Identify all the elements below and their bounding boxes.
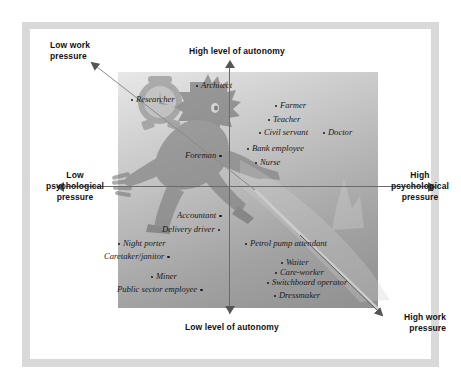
data-point-dot-icon — [245, 243, 247, 245]
occupation-label: Farmer — [275, 100, 306, 110]
occupation-label-text: Dressmaker — [279, 290, 320, 300]
occupation-label-text: Miner — [156, 271, 177, 281]
occupation-label-text: Architect — [201, 80, 232, 90]
occupation-label-text: Public sector employee — [117, 284, 197, 294]
axis-label-right: High psychological pressure — [382, 170, 458, 203]
data-point-dot-icon — [275, 272, 277, 274]
data-point-dot-icon — [219, 215, 221, 217]
axis-arrow-up-icon — [225, 60, 235, 68]
occupation-label-text: Farmer — [280, 100, 306, 110]
occupation-label-text: Doctor — [328, 127, 352, 137]
axis-label-low-work-pressure: Low work pressure — [50, 40, 124, 62]
occupation-label-text: Researcher — [136, 94, 175, 104]
occupation-label: Bank employee — [247, 143, 304, 153]
axis-label-right-line2: psychological — [382, 181, 458, 192]
data-point-dot-icon — [218, 229, 220, 231]
occupation-label: Researcher — [131, 94, 175, 104]
occupation-label: Care-worker — [275, 267, 324, 277]
occupation-label-text: Delivery driver — [162, 224, 215, 234]
data-point-dot-icon — [247, 148, 249, 150]
axis-label-high-work-pressure-line2: pressure — [384, 323, 446, 334]
axis-label-high-work-pressure-line1: High work — [384, 312, 446, 323]
occupation-label-text: Teacher — [273, 114, 300, 124]
occupation-label-text: Foreman — [185, 150, 216, 160]
data-point-dot-icon — [323, 132, 325, 134]
data-point-dot-icon — [275, 105, 277, 107]
data-point-dot-icon — [131, 99, 133, 101]
occupation-label: Nurse — [255, 157, 280, 167]
axis-label-bottom: Low level of autonomy — [185, 322, 279, 333]
occupation-label: Caretaker/janitor — [104, 251, 170, 261]
occupation-label-text: Petrol pump attendant — [250, 238, 327, 248]
data-point-dot-icon — [255, 162, 257, 164]
occupation-label: Miner — [151, 271, 177, 281]
data-point-dot-icon — [219, 155, 221, 157]
occupation-label-text: Civil servant — [264, 127, 308, 137]
axis-label-low-work-pressure-line1: Low work — [50, 40, 124, 51]
occupation-label-text: Accountant — [177, 210, 216, 220]
data-point-dot-icon — [268, 119, 270, 121]
occupation-label-text: Care-worker — [280, 267, 324, 277]
data-point-dot-icon — [274, 295, 276, 297]
axis-label-low-work-pressure-line2: pressure — [50, 51, 124, 62]
occupation-label: Waiter — [281, 257, 309, 267]
occupation-label: Petrol pump attendant — [245, 238, 327, 248]
axis-label-top: High level of autonomy — [189, 46, 285, 57]
axis-label-right-line1: High — [382, 170, 458, 181]
occupation-label: Dressmaker — [274, 290, 320, 300]
occupation-label: Night porter — [118, 238, 166, 248]
data-point-dot-icon — [151, 276, 153, 278]
data-point-dot-icon — [118, 243, 120, 245]
occupation-label: Delivery driver — [162, 224, 220, 234]
axis-label-right-line3: pressure — [382, 192, 458, 203]
occupation-label: Foreman — [185, 150, 222, 160]
occupation-label: Accountant — [177, 210, 222, 220]
horizontal-axis-line — [62, 186, 430, 187]
occupation-label-text: Caretaker/janitor — [104, 251, 164, 261]
occupation-label: Doctor — [323, 127, 352, 137]
data-point-dot-icon — [259, 132, 261, 134]
occupation-label-text: Switchboard operator — [272, 277, 347, 287]
vertical-axis-line — [229, 66, 230, 314]
data-point-dot-icon — [196, 85, 198, 87]
occupation-label: Switchboard operator — [267, 277, 347, 287]
data-point-dot-icon — [167, 256, 169, 258]
axis-label-left-line2: psychological — [36, 181, 114, 192]
occupation-label-text: Bank employee — [252, 143, 304, 153]
data-point-dot-icon — [281, 262, 283, 264]
axis-label-left-line3: pressure — [36, 192, 114, 203]
diagram-figure: High level of autonomy Low level of auto… — [0, 0, 461, 389]
occupation-label-text: Nurse — [260, 157, 281, 167]
axis-label-left: Low psychological pressure — [36, 170, 114, 203]
axis-arrow-down-icon — [225, 306, 235, 314]
occupation-label-text: Waiter — [286, 257, 309, 267]
data-point-dot-icon — [200, 289, 202, 291]
occupation-label: Architect — [196, 80, 232, 90]
occupation-label: Civil servant — [259, 127, 308, 137]
axis-label-high-work-pressure: High work pressure — [384, 312, 446, 334]
occupation-label-text: Night porter — [123, 238, 166, 248]
occupation-label: Teacher — [268, 114, 300, 124]
axis-label-left-line1: Low — [36, 170, 114, 181]
occupation-label: Public sector employee — [117, 284, 203, 294]
data-point-dot-icon — [267, 282, 269, 284]
